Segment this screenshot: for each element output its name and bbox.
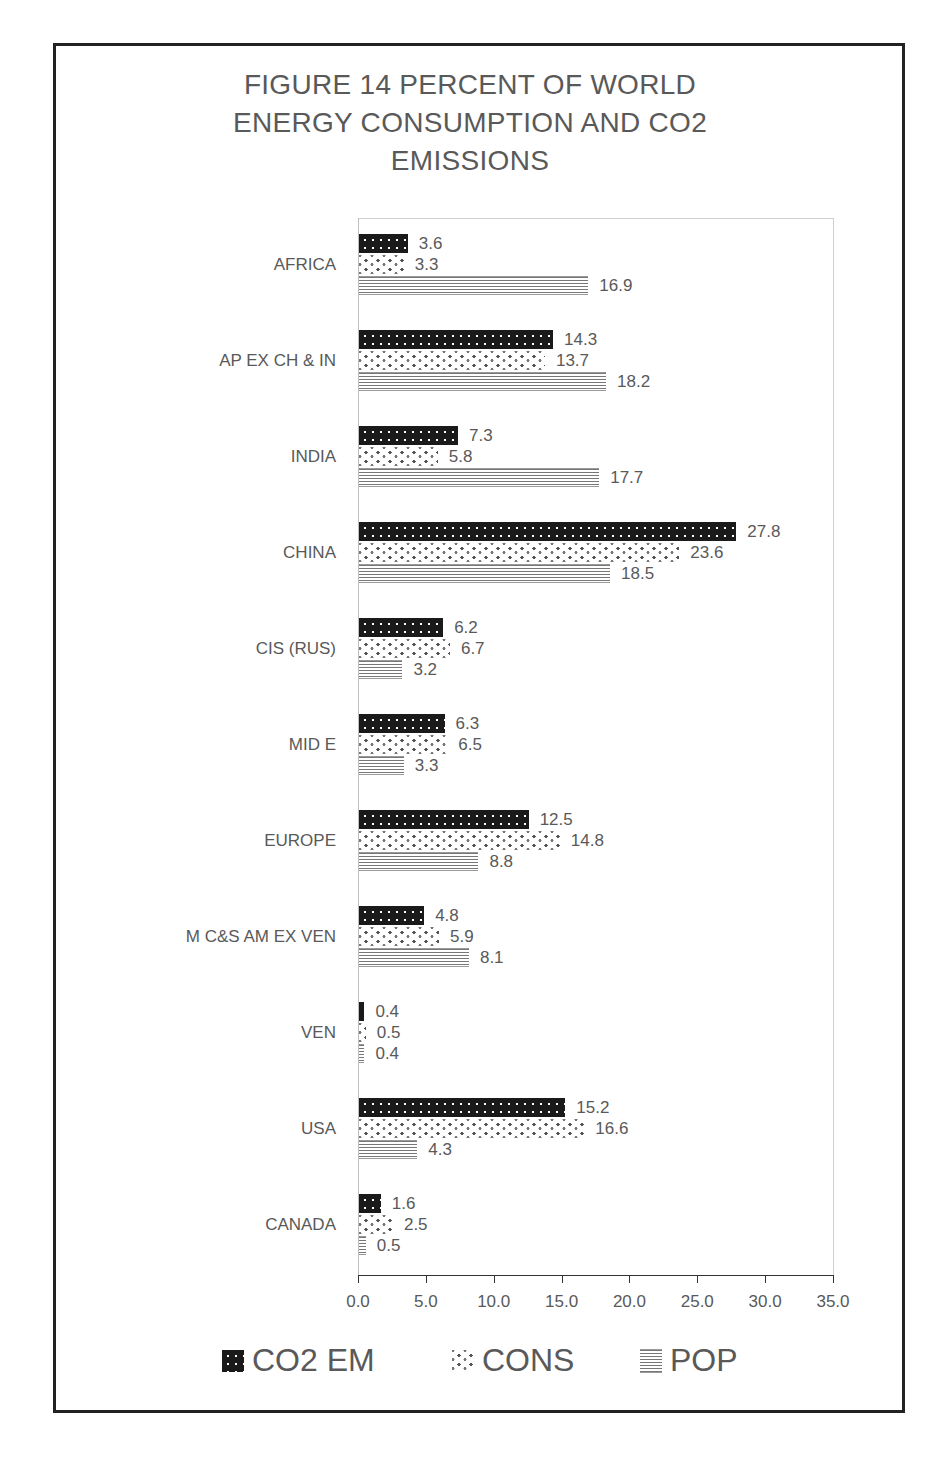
co2-bar [359, 618, 443, 637]
x-tick-mark [833, 1275, 834, 1283]
cons-bar [359, 1023, 366, 1042]
data-label: 3.6 [419, 234, 443, 253]
pop-bar [359, 276, 588, 295]
category-label: AP EX CH & IN [60, 351, 336, 371]
pop-bar [359, 1140, 417, 1159]
co2-bar [359, 234, 408, 253]
x-tick-label: 35.0 [803, 1292, 863, 1312]
category-label: CIS (RUS) [60, 639, 336, 659]
data-label: 13.7 [556, 351, 589, 370]
cons-pattern-swatch-icon [452, 1350, 474, 1372]
co2-bar [359, 522, 736, 541]
co2-bar [359, 714, 445, 733]
data-label: 0.5 [377, 1023, 401, 1042]
pop-bar [359, 1236, 366, 1255]
cons-bar [359, 255, 404, 274]
data-label: 18.2 [617, 372, 650, 391]
data-label: 0.4 [375, 1044, 399, 1063]
pop-bar [359, 372, 606, 391]
data-label: 3.3 [415, 255, 439, 274]
data-label: 16.6 [595, 1119, 628, 1138]
data-label: 16.9 [599, 276, 632, 295]
category-label: EUROPE [60, 831, 336, 851]
co2-bar [359, 1002, 364, 1021]
cons-bar [359, 543, 679, 562]
data-label: 27.8 [747, 522, 780, 541]
x-tick-mark [697, 1275, 698, 1283]
title-line-1: FIGURE 14 PERCENT OF WORLD [160, 66, 780, 104]
pop-bar [359, 660, 402, 679]
category-label: USA [60, 1119, 336, 1139]
title-line-2: ENERGY CONSUMPTION AND CO2 [160, 104, 780, 142]
data-label: 4.3 [428, 1140, 452, 1159]
category-label: INDIA [60, 447, 336, 467]
legend: CO2 EM CONS POP [0, 1342, 947, 1382]
cons-bar [359, 1119, 584, 1138]
co2-bar [359, 810, 529, 829]
x-tick-label: 0.0 [328, 1292, 388, 1312]
data-label: 6.2 [454, 618, 478, 637]
data-label: 2.5 [404, 1215, 428, 1234]
co2-bar [359, 1098, 565, 1117]
data-label: 3.2 [413, 660, 437, 679]
x-tick-mark [494, 1275, 495, 1283]
cons-bar [359, 927, 439, 946]
x-tick-label: 25.0 [667, 1292, 727, 1312]
pop-bar [359, 756, 404, 775]
chart-title: FIGURE 14 PERCENT OF WORLD ENERGY CONSUM… [160, 66, 780, 180]
data-label: 14.3 [564, 330, 597, 349]
data-label: 8.1 [480, 948, 504, 967]
data-label: 3.3 [415, 756, 439, 775]
x-tick-mark [358, 1275, 359, 1283]
category-label: VEN [60, 1023, 336, 1043]
data-label: 0.4 [375, 1002, 399, 1021]
data-label: 8.8 [489, 852, 513, 871]
co2-bar [359, 906, 424, 925]
data-label: 6.7 [461, 639, 485, 658]
x-tick-label: 5.0 [396, 1292, 456, 1312]
data-label: 1.6 [392, 1194, 416, 1213]
category-label: CHINA [60, 543, 336, 563]
x-tick-label: 15.0 [532, 1292, 592, 1312]
legend-label: CO2 EM [252, 1342, 375, 1379]
legend-item-pop: POP [640, 1342, 738, 1379]
cons-bar [359, 447, 438, 466]
title-line-3: EMISSIONS [160, 142, 780, 180]
category-label: MID E [60, 735, 336, 755]
pop-bar [359, 1044, 364, 1063]
legend-item-cons: CONS [452, 1342, 574, 1379]
cons-bar [359, 639, 450, 658]
data-label: 12.5 [540, 810, 573, 829]
cons-bar [359, 735, 447, 754]
data-label: 0.5 [377, 1236, 401, 1255]
data-label: 17.7 [610, 468, 643, 487]
legend-label: CONS [482, 1342, 574, 1379]
co2-bar [359, 330, 553, 349]
pop-pattern-swatch-icon [640, 1349, 662, 1373]
cons-bar [359, 351, 545, 370]
co2-bar [359, 426, 458, 445]
x-axis [358, 1275, 834, 1276]
co2-bar [359, 1194, 381, 1213]
data-label: 5.9 [450, 927, 474, 946]
co2-pattern-swatch-icon [222, 1350, 244, 1372]
pop-bar [359, 852, 478, 871]
x-tick-label: 30.0 [735, 1292, 795, 1312]
data-label: 14.8 [571, 831, 604, 850]
data-label: 4.8 [435, 906, 459, 925]
data-label: 5.8 [449, 447, 473, 466]
data-label: 15.2 [576, 1098, 609, 1117]
category-label: M C&S AM EX VEN [60, 927, 336, 947]
x-tick-mark [426, 1275, 427, 1283]
x-tick-label: 10.0 [464, 1292, 524, 1312]
data-label: 6.5 [458, 735, 482, 754]
legend-label: POP [670, 1342, 738, 1379]
cons-bar [359, 831, 560, 850]
x-tick-label: 20.0 [599, 1292, 659, 1312]
data-label: 6.3 [456, 714, 480, 733]
pop-bar [359, 564, 610, 583]
category-label: CANADA [60, 1215, 336, 1235]
category-label: AFRICA [60, 255, 336, 275]
x-tick-mark [765, 1275, 766, 1283]
x-tick-mark [629, 1275, 630, 1283]
